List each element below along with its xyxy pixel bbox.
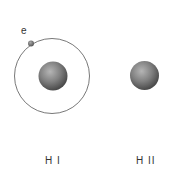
electron-label: e xyxy=(21,25,28,36)
h1-label: H I xyxy=(45,155,61,166)
h2-label: H II xyxy=(136,155,156,166)
nucleus-h2 xyxy=(130,61,159,90)
nucleus-h1 xyxy=(39,62,68,91)
electron xyxy=(28,41,34,47)
